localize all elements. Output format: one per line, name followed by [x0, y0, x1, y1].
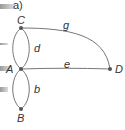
edge-c-a-left — [13, 28, 21, 69]
node-c-dot — [19, 26, 23, 30]
node-label-d: D — [115, 64, 123, 75]
node-d-dot — [108, 67, 112, 71]
edge-b — [21, 69, 29, 109]
edge-label-g: g — [63, 20, 69, 31]
edge-label-e: e — [64, 59, 70, 70]
node-label-b: B — [17, 113, 24, 124]
edge-label-b: b — [34, 84, 40, 95]
edge-a-b-left — [13, 69, 21, 109]
node-a-dot — [19, 67, 23, 71]
edge-label-d: d — [34, 43, 40, 54]
part-label: a) — [13, 0, 23, 11]
node-b-dot — [19, 107, 23, 111]
node-label-a: A — [6, 64, 13, 75]
graph-diagram: a) C A B D g d e b — [0, 0, 125, 130]
edge-d — [21, 28, 29, 69]
node-label-c: C — [17, 15, 25, 26]
